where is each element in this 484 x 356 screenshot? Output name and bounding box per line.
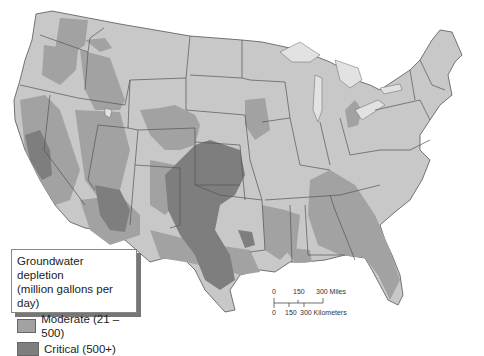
legend-title-line1: Groundwater depletion xyxy=(17,254,131,282)
scale-miles-150: 150 xyxy=(293,288,305,295)
legend-item-critical: Critical (500+) xyxy=(17,342,131,356)
legend-title-line2: (million gallons per day) xyxy=(17,282,131,310)
legend: Groundwater depletion (million gallons p… xyxy=(11,249,137,313)
critical-swatch xyxy=(17,342,39,356)
scale-km-150: 150 xyxy=(285,309,297,316)
legend-item-moderate: Moderate (21 – 500) xyxy=(17,312,131,340)
moderate-swatch xyxy=(17,319,36,333)
legend-label-moderate: Moderate (21 – 500) xyxy=(41,312,131,340)
scale-miles-0: 0 xyxy=(272,288,276,295)
scale-km-300: 300 Kilometers xyxy=(300,309,347,316)
scale-miles-300: 300 Miles xyxy=(316,288,346,295)
scale-bar: 0 150 300 Miles 0 150 300 Kilometers xyxy=(270,288,380,328)
legend-label-critical: Critical (500+) xyxy=(44,342,116,356)
scale-km-0: 0 xyxy=(272,309,276,316)
